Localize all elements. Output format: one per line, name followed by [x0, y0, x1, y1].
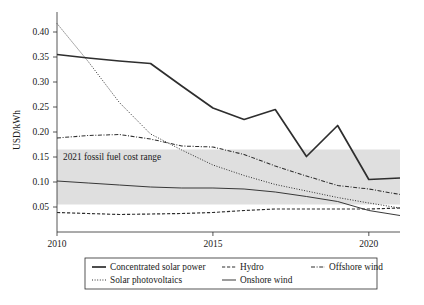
x-axis-ticks — [57, 232, 369, 236]
y-axis-title-group: USD/kWh — [12, 110, 22, 150]
renewable-cost-line-chart: 0.40 0.35 0.30 0.25 0.20 0.15 0.10 0.05 … — [0, 0, 424, 305]
band-annotation-label: 2021 fossil fuel cost range — [63, 152, 161, 162]
legend-label-concentrated-solar-power: Concentrated solar power — [110, 262, 206, 272]
legend-label-solar-photovoltaics: Solar photovoltaics — [110, 275, 182, 285]
y-tick-label-0.15: 0.15 — [32, 152, 49, 162]
y-axis-ticks — [53, 32, 57, 207]
y-tick-label-0.20: 0.20 — [32, 127, 49, 137]
legend-label-hydro: Hydro — [240, 262, 264, 272]
x-tick-label-2020: 2020 — [359, 239, 378, 249]
y-tick-label-0.35: 0.35 — [32, 52, 49, 62]
chart-page: 0.40 0.35 0.30 0.25 0.20 0.15 0.10 0.05 … — [0, 0, 424, 305]
y-tick-label-0.05: 0.05 — [32, 202, 49, 212]
y-tick-label-0.40: 0.40 — [32, 27, 49, 37]
x-axis-tick-labels: 2010 2015 2020 — [48, 239, 379, 249]
y-tick-label-0.30: 0.30 — [32, 77, 49, 87]
y-axis-title: USD/kWh — [12, 110, 22, 150]
x-tick-label-2015: 2015 — [203, 239, 222, 249]
y-axis-tick-labels: 0.40 0.35 0.30 0.25 0.20 0.15 0.10 0.05 — [32, 27, 49, 212]
legend-label-onshore-wind: Onshore wind — [240, 275, 293, 285]
y-tick-label-0.10: 0.10 — [32, 177, 49, 187]
legend-item-concentrated-solar-power[interactable]: Concentrated solar power — [92, 262, 206, 272]
x-tick-label-2010: 2010 — [48, 239, 67, 249]
legend: Concentrated solar power Solar photovolt… — [85, 258, 383, 289]
fossil-fuel-band-label: 2021 fossil fuel cost range — [63, 152, 161, 162]
y-tick-label-0.25: 0.25 — [32, 102, 49, 112]
legend-label-offshore-wind: Offshore wind — [329, 262, 383, 272]
